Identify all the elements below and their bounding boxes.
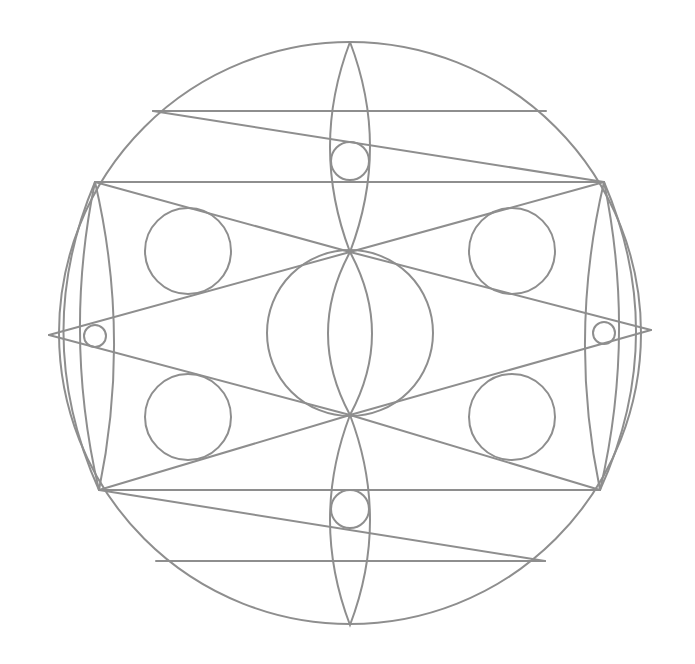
circle-upper-left (145, 208, 231, 294)
mandala-svg (0, 0, 695, 664)
diagonal-line-4 (99, 415, 350, 490)
diagonal-line-1 (99, 490, 545, 561)
circle-left-small (84, 325, 106, 347)
circle-lower-right (469, 374, 555, 460)
vesica-bottom (330, 415, 370, 625)
diagonal-line-5 (350, 415, 600, 490)
diagonal-line-0 (153, 111, 604, 182)
vesica-center (328, 252, 372, 415)
vesica-left (80, 182, 114, 490)
circle-right-small (593, 322, 615, 344)
left-arc (63, 182, 99, 490)
outer-circle (59, 42, 641, 624)
circle-top-small (331, 142, 369, 180)
mandala-diagram (0, 0, 695, 664)
circle-bottom-small (331, 490, 369, 528)
circle-lower-left (145, 374, 231, 460)
diagonal-line-3 (350, 182, 604, 252)
circle-upper-right (469, 208, 555, 294)
diagonal-line-2 (95, 182, 350, 252)
circle-center-large (267, 250, 433, 416)
